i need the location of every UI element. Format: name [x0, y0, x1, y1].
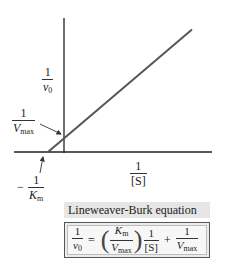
equation-box: 1 v0 = ( Km Vmax ) 1 [S] + 1 Vmax: [64, 222, 210, 258]
equals-sign: =: [88, 233, 95, 248]
y-axis-label: 1 v0: [42, 66, 53, 97]
x-intercept-sign: −: [17, 180, 24, 195]
left-paren: (: [101, 227, 110, 253]
equation-term: 1 [S]: [144, 228, 159, 253]
equation: 1 v0 = ( Km Vmax ) 1 [S] + 1 Vmax: [67, 225, 207, 255]
plus-sign: +: [164, 233, 171, 248]
equation-slope: Km Vmax: [110, 225, 133, 256]
x-axis-label: 1 [S]: [130, 160, 147, 187]
x-intercept-arrow: [40, 157, 43, 173]
equation-lhs: 1 v0: [72, 226, 83, 254]
regression-line: [48, 30, 192, 153]
y-intercept-label: 1 Vmax: [12, 107, 35, 138]
right-paren: ): [134, 227, 143, 253]
x-intercept-label: 1 Km: [28, 174, 44, 205]
equation-intercept: 1 Vmax: [176, 226, 199, 254]
equation-title: Lineweaver-Burk equation: [64, 202, 210, 218]
y-intercept-arrow: [40, 124, 61, 134]
